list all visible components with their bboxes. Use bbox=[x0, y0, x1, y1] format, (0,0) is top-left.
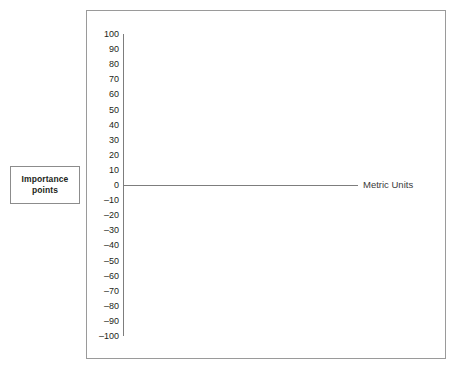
y-axis-tick-label: 90 bbox=[87, 44, 119, 54]
y-axis-tick-label: 10 bbox=[87, 165, 119, 175]
y-axis-tick-label: –40 bbox=[87, 240, 119, 250]
y-axis-tick-label: 50 bbox=[87, 105, 119, 115]
y-axis-tick-label: –60 bbox=[87, 271, 119, 281]
importance-points-box: Importance points bbox=[10, 166, 80, 204]
y-axis-tick-label: 20 bbox=[87, 150, 119, 160]
y-axis-tick-label: –50 bbox=[87, 256, 119, 266]
y-axis-tick-label: –90 bbox=[87, 316, 119, 326]
y-axis-tick-label: 30 bbox=[87, 135, 119, 145]
importance-points-label-line-1: Importance bbox=[22, 174, 69, 185]
importance-points-label-line-2: points bbox=[32, 185, 58, 196]
chart-frame: 1009080706050403020100–10–20–30–40–50–60… bbox=[86, 10, 446, 359]
y-axis-tick-label: 70 bbox=[87, 74, 119, 84]
x-axis-title: Metric Units bbox=[363, 179, 413, 190]
y-axis-tick-label: –70 bbox=[87, 286, 119, 296]
y-axis-tick-label-group: 1009080706050403020100–10–20–30–40–50–60… bbox=[87, 11, 119, 360]
y-axis-tick-label: 100 bbox=[87, 29, 119, 39]
y-axis-tick-label: 0 bbox=[87, 180, 119, 190]
y-axis-tick-label: –10 bbox=[87, 195, 119, 205]
y-axis-tick-label: –80 bbox=[87, 301, 119, 311]
y-axis-tick-label: 80 bbox=[87, 59, 119, 69]
y-axis-tick-label: 60 bbox=[87, 89, 119, 99]
y-axis-tick-label: –100 bbox=[87, 331, 119, 341]
chart-axes-area: 1009080706050403020100–10–20–30–40–50–60… bbox=[87, 11, 447, 360]
y-axis-tick-label: 40 bbox=[87, 120, 119, 130]
y-axis-tick-label: –30 bbox=[87, 225, 119, 235]
y-axis-tick-label: –20 bbox=[87, 210, 119, 220]
zero-baseline-line bbox=[123, 185, 358, 186]
